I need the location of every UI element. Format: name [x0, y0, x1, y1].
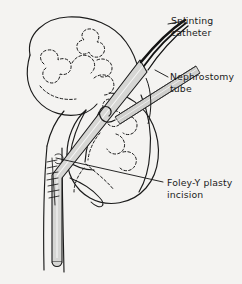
foley-y-plasty-label-line2: incision — [167, 189, 203, 200]
label-splinting-catheter: Splinting catheter — [171, 15, 213, 38]
medical-illustration-figure: Splinting catheter Nephrostomy tube Fole… — [0, 0, 242, 284]
splinting-catheter-tip — [52, 262, 62, 267]
nephrostomy-tube-label-line2: tube — [170, 83, 192, 94]
nephrostomy-tube-label-line1: Nephrostomy — [170, 71, 235, 82]
splinting-catheter-label-line1: Splinting — [171, 15, 213, 26]
splinting-catheter-label-line2: catheter — [171, 27, 211, 38]
foley-y-plasty-label-line1: Foley-Y plasty — [167, 177, 233, 188]
kidney-diagram-svg: Splinting catheter Nephrostomy tube Fole… — [0, 0, 242, 284]
figure-background — [0, 0, 242, 284]
